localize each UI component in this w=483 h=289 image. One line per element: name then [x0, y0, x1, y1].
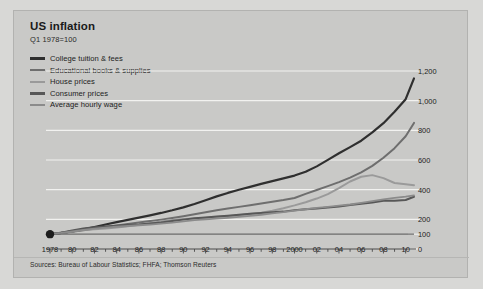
legend-item-label: Average hourly wage	[50, 100, 122, 109]
x-axis-tick-label: 2000	[286, 245, 302, 254]
x-axis-tick-label: 1978	[42, 245, 58, 254]
x-axis-tick-label: 10	[402, 245, 410, 254]
legend-item: College tuition & fees	[30, 53, 230, 65]
chart-figure: US inflation Q1 1978=100 College tuition…	[13, 10, 468, 278]
legend-item-label: House prices	[50, 77, 95, 86]
y-axis-tick-label: 600	[418, 156, 430, 165]
x-axis-tick-label: 86	[135, 245, 143, 254]
x-axis-tick-label: 80	[68, 245, 76, 254]
legend-swatch-icon	[30, 81, 45, 83]
x-axis-tick-label: 04	[335, 245, 343, 254]
y-axis-tick-label: 200	[418, 215, 430, 224]
x-axis-tick-label: 84	[113, 245, 121, 254]
x-axis-tick-label: 90	[179, 245, 187, 254]
series-line	[50, 195, 414, 234]
legend-swatch-icon	[30, 92, 45, 95]
chart-legend: College tuition & feesEducational books …	[30, 53, 230, 111]
x-axis-tick-label: 08	[379, 245, 387, 254]
legend-item: Consumer prices	[30, 88, 230, 100]
y-axis-tick-label: 100	[418, 230, 430, 239]
x-axis-tick-label: 82	[90, 245, 98, 254]
x-axis-tick-label: 06	[357, 245, 365, 254]
legend-item: House prices	[30, 76, 230, 88]
series-line	[50, 197, 414, 234]
x-axis-tick-label: 88	[157, 245, 165, 254]
y-axis-tick-label: 1,000	[418, 96, 437, 105]
x-axis-tick-label: 96	[246, 245, 254, 254]
chart-title: US inflation	[30, 20, 95, 32]
legend-item-label: College tuition & fees	[50, 54, 123, 63]
y-axis-tick-label: 0	[418, 245, 422, 254]
x-axis-tick-label: 02	[313, 245, 321, 254]
legend-item-label: Consumer prices	[50, 89, 108, 98]
y-axis-tick-label: 400	[418, 185, 430, 194]
chart-plot-area	[14, 11, 469, 279]
x-axis-tick-label: 94	[224, 245, 232, 254]
x-axis-tick-label: 98	[268, 245, 276, 254]
y-axis-tick-label: 800	[418, 126, 430, 135]
legend-swatch-icon	[30, 57, 45, 60]
series-line	[50, 123, 414, 234]
legend-swatch-icon	[30, 69, 45, 71]
legend-item-label: Educational books & supplies	[50, 66, 151, 75]
y-axis-tick-label: 1,200	[418, 67, 437, 76]
legend-swatch-icon	[30, 104, 45, 106]
series-line	[50, 175, 414, 234]
origin-marker-dot	[46, 230, 54, 238]
x-axis-tick-label: 92	[201, 245, 209, 254]
legend-item: Educational books & supplies	[30, 65, 230, 77]
source-note: Sources: Bureau of Labour Statistics; FH…	[30, 261, 216, 268]
source-divider	[14, 257, 469, 258]
legend-item: Average hourly wage	[30, 99, 230, 111]
chart-subtitle: Q1 1978=100	[30, 35, 77, 44]
